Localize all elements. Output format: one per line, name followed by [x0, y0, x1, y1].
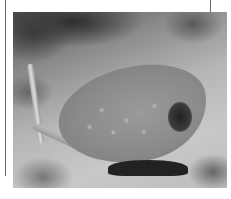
stingray-shadow	[108, 160, 188, 176]
stingray-eye	[168, 102, 192, 132]
stingray-photo	[13, 12, 227, 188]
left-frame-rule	[5, 0, 6, 176]
